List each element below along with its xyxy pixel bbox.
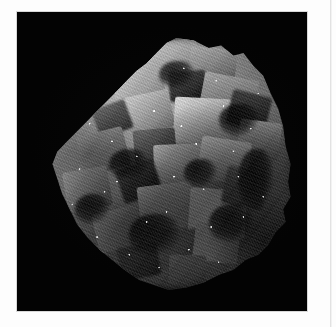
page-margin-rule-secondary bbox=[331, 0, 332, 327]
specimen-edge-soften bbox=[45, 38, 293, 290]
specimen-photo-plate bbox=[17, 12, 307, 311]
mineral-specimen bbox=[45, 38, 293, 290]
figure-page bbox=[0, 0, 336, 327]
